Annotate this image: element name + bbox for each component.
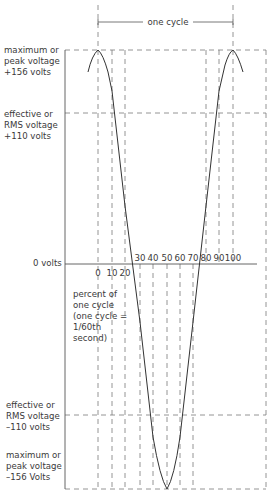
x-axis-note: percent of one cycle (one cycle = 1/60th… — [73, 289, 127, 344]
label-peak-positive: maximum or peak voltage +156 volts — [4, 45, 60, 78]
tick-10: 10 — [107, 268, 118, 278]
tick-0: 0 — [95, 268, 100, 278]
one-cycle-label: one cycle — [148, 17, 189, 27]
tick-100: 100 — [225, 253, 241, 263]
label-peak-negative: maximum or peak voltage –156 Volts — [6, 450, 62, 483]
tick-80: 80 — [201, 253, 212, 263]
reference-lines — [65, 5, 266, 489]
tick-70: 70 — [188, 253, 199, 263]
tick-50: 50 — [162, 253, 173, 263]
tick-90: 90 — [214, 253, 225, 263]
label-rms-negative: effective or RMS voltage –110 volts — [6, 400, 60, 433]
tick-40: 40 — [148, 253, 159, 263]
tick-30: 30 — [135, 253, 146, 263]
tick-60: 60 — [175, 253, 186, 263]
axes — [65, 50, 257, 489]
tick-20: 20 — [120, 268, 131, 278]
label-rms-positive: effective or RMS voltage +110 volts — [4, 109, 58, 142]
label-zero-volts: 0 volts — [33, 258, 62, 269]
